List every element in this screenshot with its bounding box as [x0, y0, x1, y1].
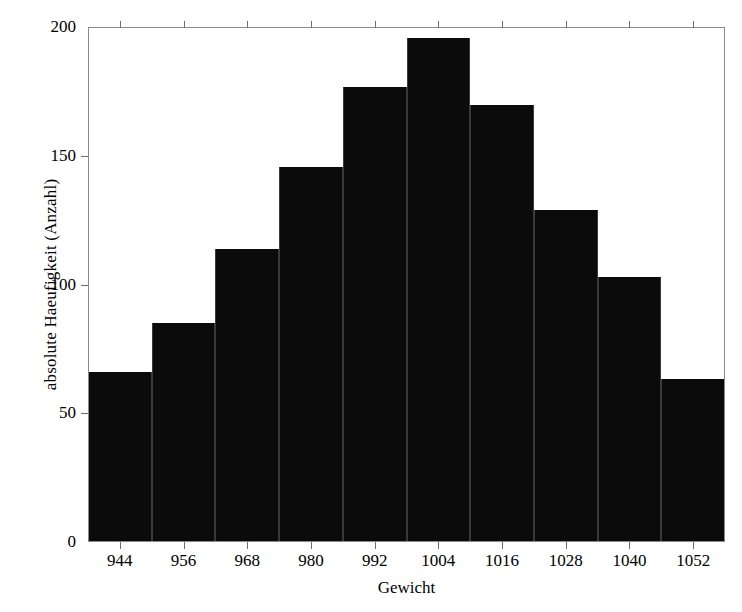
histogram-bar [215, 249, 279, 541]
x-axis-tick-top [693, 21, 694, 28]
histogram-bar [89, 372, 152, 541]
x-axis-tick [247, 542, 248, 549]
x-axis-tick [184, 542, 185, 549]
histogram-bar [598, 277, 662, 541]
x-axis-tick-top [566, 21, 567, 28]
histogram-bar [279, 167, 343, 541]
histogram-figure: absolute Haeufigkeit (Anzahl) 0501001502… [0, 0, 742, 612]
x-axis-tick-top [247, 21, 248, 28]
histogram-bar [152, 323, 216, 541]
y-axis-tick-label: 150 [14, 146, 76, 166]
y-axis-tick [81, 285, 88, 286]
x-axis-tick-top [184, 21, 185, 28]
x-axis-tick [629, 542, 630, 549]
x-axis-tick [566, 542, 567, 549]
plot-area [88, 27, 725, 542]
x-axis-tick [120, 542, 121, 549]
y-axis-tick-label: 100 [14, 275, 76, 295]
x-axis-tick [375, 542, 376, 549]
y-axis-tick-label: 200 [14, 17, 76, 37]
x-axis-label: Gewicht [88, 578, 725, 598]
x-axis-tick [693, 542, 694, 549]
y-axis-tick-label: 50 [14, 403, 76, 423]
histogram-bar [407, 38, 471, 541]
x-axis-tick-top [629, 21, 630, 28]
y-axis-tick [81, 156, 88, 157]
x-axis-tick-label: 1052 [653, 551, 733, 571]
histogram-bar [343, 87, 407, 541]
x-axis-tick [438, 542, 439, 549]
x-axis-tick-top [438, 21, 439, 28]
histogram-bar [661, 379, 724, 541]
x-axis-tick [502, 542, 503, 549]
x-axis-tick-top [375, 21, 376, 28]
x-axis-tick-top [311, 21, 312, 28]
bar-series [89, 28, 724, 541]
y-axis-tick [81, 413, 88, 414]
histogram-bar [534, 210, 598, 541]
x-axis-tick [311, 542, 312, 549]
y-axis-tick-label: 0 [14, 532, 76, 552]
x-axis-tick-top [120, 21, 121, 28]
histogram-bar [470, 105, 534, 541]
x-axis-tick-top [502, 21, 503, 28]
